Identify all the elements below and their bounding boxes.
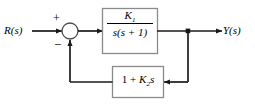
summing-junction-circle bbox=[62, 23, 78, 39]
output-signal-label: Y(s) bbox=[223, 25, 241, 36]
feedback-block-transfer-function: 1 + K2s bbox=[113, 73, 163, 90]
feedback-block-expression-suffix: s bbox=[150, 73, 154, 85]
forward-block-transfer-function: K1 s(s + 1) bbox=[103, 9, 157, 39]
forward-block-numerator: K1 bbox=[103, 9, 157, 22]
forward-block-fraction-bar bbox=[107, 23, 153, 24]
forward-block-gain-subscript: 1 bbox=[132, 16, 136, 24]
forward-block-gain-symbol: K bbox=[125, 9, 132, 21]
input-signal-label: R(s) bbox=[4, 25, 22, 36]
feedback-block-expression-prefix: 1 + bbox=[122, 73, 139, 85]
forward-block-denominator: s(s + 1) bbox=[103, 25, 157, 39]
summing-junction-plus-sign: + bbox=[53, 12, 60, 24]
summing-junction-minus-sign: − bbox=[54, 38, 61, 51]
block-diagram-canvas: R(s) Y(s) + − K1 s(s + 1) 1 + K2s bbox=[0, 0, 255, 105]
